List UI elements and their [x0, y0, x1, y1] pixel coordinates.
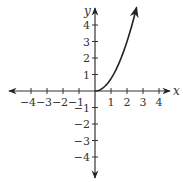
y-tick-label: 1 — [83, 69, 90, 82]
x-tick-label: 2 — [124, 96, 131, 109]
x-tick-label: 4 — [156, 96, 163, 109]
axis-labels: xy — [83, 4, 180, 98]
y-tick-label: 3 — [83, 36, 90, 49]
y-tick-label: 4 — [83, 19, 90, 32]
x-tick-label: 1 — [108, 96, 115, 109]
y-tick-label: 2 — [83, 52, 90, 65]
x-tick-label: −4 — [20, 96, 36, 109]
y-tick-label: −4 — [74, 151, 90, 164]
y-axis-label: y — [83, 4, 91, 18]
y-tick-label: −1 — [74, 102, 90, 115]
x-tick-label: −2 — [52, 96, 68, 109]
x-tick-label: −3 — [36, 96, 52, 109]
curve — [95, 7, 137, 91]
x-tick-label: 3 — [140, 96, 147, 109]
y-tick-label: −3 — [74, 135, 90, 148]
y-tick-label: −2 — [74, 118, 90, 131]
x-axis-label: x — [173, 84, 180, 98]
curve-line — [95, 7, 137, 91]
coordinate-plane: −4−3−2−11234−4−3−2−11234 xy — [0, 0, 183, 182]
